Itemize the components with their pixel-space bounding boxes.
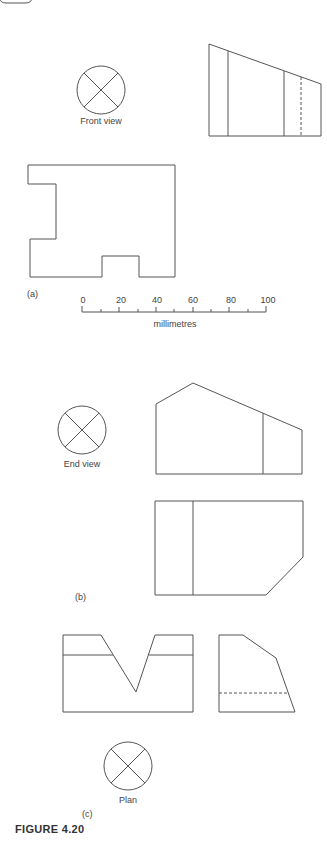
end-view-symbol: End view: [58, 406, 106, 469]
part-a-label: (a): [27, 289, 38, 299]
part-c-label: (c): [82, 809, 93, 819]
front-view-drawing: [209, 44, 321, 136]
plan-drawing-b: [155, 501, 303, 595]
figure-caption: FIGURE 4.20: [15, 823, 84, 835]
end-view-label: End view: [64, 459, 101, 469]
scale-tick-80: 80: [226, 295, 236, 305]
front-view-label: Front view: [80, 116, 122, 126]
front-view-symbol: Front view: [77, 66, 125, 126]
header-box-fragment: [0, 0, 32, 3]
plan-outline-a: [28, 165, 175, 277]
scale-bar: 0 20 40 60 80 100 millimetres: [80, 295, 275, 329]
figure-canvas: Front view (a) 0 20 40 60 80: [0, 0, 327, 842]
part-b: End view (b): [58, 383, 303, 602]
v-block-drawing: [63, 635, 193, 712]
plan-label: Plan: [119, 795, 137, 805]
scale-tick-60: 60: [188, 295, 198, 305]
part-c: Plan (c): [63, 635, 295, 819]
scale-tick-0: 0: [80, 295, 85, 305]
part-b-label: (b): [75, 592, 86, 602]
scale-unit-label: millimetres: [153, 319, 197, 329]
scale-tick-40: 40: [152, 295, 162, 305]
end-view-drawing: [156, 383, 302, 474]
scale-tick-100: 100: [260, 295, 275, 305]
plan-symbol: Plan: [104, 742, 152, 805]
scale-tick-20: 20: [116, 295, 126, 305]
part-a: Front view (a): [27, 44, 321, 299]
side-drawing-c: [219, 635, 295, 712]
